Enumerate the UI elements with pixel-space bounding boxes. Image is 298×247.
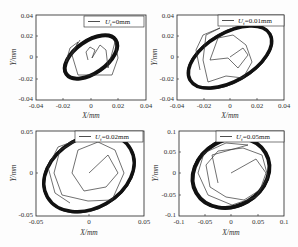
ytick: -0.05	[161, 191, 176, 199]
xtick: -0.04	[170, 102, 185, 110]
ytick: 0	[30, 53, 34, 61]
ytick: 0.04	[162, 12, 175, 20]
xtick: 0.04	[278, 102, 291, 110]
xtick: 0.1	[280, 218, 289, 226]
x-axis-label: X/mm	[79, 228, 98, 237]
legend: Uf=0.02mm	[75, 131, 143, 142]
y-axis-label: Y/mm	[151, 164, 160, 182]
plot-uf-0.05mm: 0.1 0.05 0 -0.05 -0.1 -0.1 -0.05 0 0.05 …	[148, 115, 298, 235]
xtick: 0	[87, 218, 91, 226]
ytick: 0	[30, 169, 34, 177]
xtick: -0.02	[56, 102, 71, 110]
xtick: 0.05	[252, 218, 265, 226]
ytick: 0.02	[162, 32, 175, 40]
plot-canvas: 0.04 0.02 0 -0.02 -0.04 -0.04 -0.02 0 0.…	[0, 0, 150, 118]
xtick: 0	[229, 218, 233, 226]
legend: Uf=0mm	[84, 16, 144, 27]
xtick: -0.05	[198, 218, 213, 226]
svg-text:Uf=0mm: Uf=0mm	[105, 18, 131, 27]
plot-uf-0.02mm: 0.05 0 -0.05 -0.05 0 0.05 X/mm Y/mm Uf=0…	[0, 115, 150, 235]
xtick: -0.1	[173, 218, 185, 226]
plot-canvas: 0.05 0 -0.05 -0.05 0 0.05 X/mm Y/mm Uf=0…	[0, 115, 150, 235]
xtick: 0.02	[112, 102, 125, 110]
plot-uf-0mm: 0.04 0.02 0 -0.02 -0.04 -0.04 -0.02 0 0.…	[0, 0, 150, 118]
ytick: 0	[173, 169, 177, 177]
legend: Uf=0.01mm	[218, 15, 284, 26]
plot-canvas: 0.04 0.02 0 -0.02 -0.04 -0.04 -0.02 0 0.…	[148, 0, 298, 118]
y-axis-label: Y/mm	[9, 164, 18, 182]
x-axis-label: X/mm	[221, 228, 240, 237]
ytick: -0.02	[159, 75, 174, 83]
ytick: 0.02	[21, 32, 34, 40]
plot-uf-0.01mm: 0.04 0.02 0 -0.02 -0.04 -0.04 -0.02 0 0.…	[148, 0, 298, 118]
ytick: 0	[171, 53, 175, 61]
y-axis-label: Y/mm	[9, 48, 18, 66]
xtick: -0.05	[29, 218, 44, 226]
legend: Uf=0.05mm	[216, 131, 284, 142]
plot-canvas: 0.1 0.05 0 -0.05 -0.1 -0.1 -0.05 0 0.05 …	[148, 115, 298, 235]
xtick: -0.02	[197, 102, 212, 110]
ytick: -0.02	[18, 75, 33, 83]
ytick: 0.05	[164, 148, 177, 156]
ytick: 0.04	[21, 12, 34, 20]
ytick: 0.1	[167, 128, 176, 136]
xtick: 0	[228, 102, 232, 110]
xtick: 0	[89, 102, 93, 110]
xtick: -0.04	[29, 102, 44, 110]
ytick: 0.05	[21, 128, 34, 136]
xtick: 0.02	[251, 102, 264, 110]
y-axis-label: Y/mm	[150, 48, 159, 66]
